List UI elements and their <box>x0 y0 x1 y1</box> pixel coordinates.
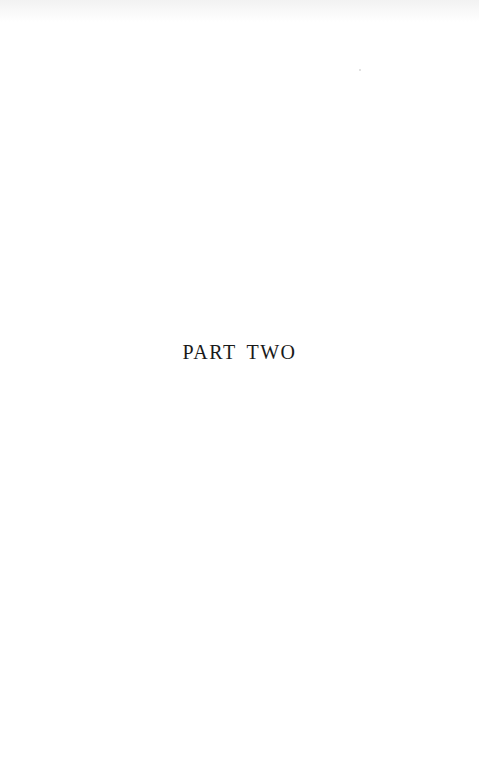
book-page: PART TWO <box>0 0 479 764</box>
scan-edge-shadow <box>0 0 479 22</box>
scan-speck <box>359 69 361 71</box>
part-title: PART TWO <box>0 341 479 364</box>
